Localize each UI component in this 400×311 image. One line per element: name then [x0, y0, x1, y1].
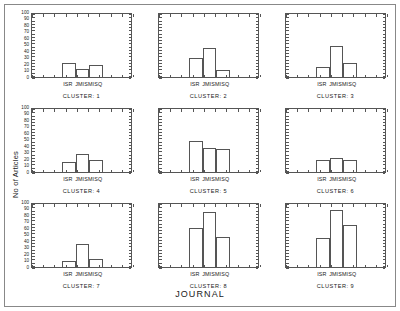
bar-jmis	[203, 148, 217, 172]
x-tick-label-jmis: JMIS	[329, 176, 342, 182]
y-tick-label: 10	[24, 259, 29, 264]
bar-jmis	[330, 158, 344, 172]
bar-isr	[316, 238, 330, 267]
y-tick-label: 10	[24, 164, 29, 169]
x-tick-top	[133, 204, 134, 207]
x-tick-label-jmis: JMIS	[329, 271, 342, 277]
y-tick-label-group: 0102030405060708090100	[16, 13, 29, 78]
panel-caption-cluster-2: CLUSTER: 2	[158, 93, 259, 99]
bar-jmis	[76, 69, 90, 77]
y-tick-label: 0	[26, 76, 29, 81]
y-tick-label: 0	[26, 171, 29, 176]
facet-panel-cluster-7: 0102030405060708090100ISRJMISMISQCLUSTER…	[31, 203, 132, 268]
bar-group-cluster-2	[159, 14, 258, 77]
y-tick-label: 10	[24, 69, 29, 74]
plot-area-cluster-7	[31, 203, 132, 268]
x-tick-label-jmis: JMIS	[202, 81, 215, 87]
x-tick-label-jmis: JMIS	[75, 176, 88, 182]
y-tick-label: 20	[24, 158, 29, 163]
bar-isr	[189, 228, 203, 267]
y-tick-label: 90	[24, 17, 29, 22]
panel-caption-cluster-7: CLUSTER: 7	[31, 283, 132, 289]
y-tick-label: 50	[24, 138, 29, 143]
y-tick-label: 50	[24, 233, 29, 238]
x-tick-label-misq: MISQ	[88, 271, 102, 277]
x-tick-bottom	[260, 265, 261, 268]
bar-group-cluster-7	[32, 204, 131, 267]
bar-jmis	[76, 154, 90, 172]
bar-group-cluster-6	[286, 109, 385, 172]
x-tick-top	[260, 109, 261, 112]
bar-isr	[189, 141, 203, 172]
panel-caption-cluster-4: CLUSTER: 4	[31, 188, 132, 194]
y-tick-right	[256, 268, 259, 269]
facet-panel-cluster-9: ISRJMISMISQCLUSTER: 9	[285, 203, 386, 268]
bar-misq	[343, 63, 357, 77]
y-tick-left	[159, 78, 162, 79]
x-tick-bottom	[387, 170, 388, 173]
y-tick-label: 20	[24, 253, 29, 258]
facet-panel-cluster-6: ISRJMISMISQCLUSTER: 6	[285, 108, 386, 173]
x-axis-title: JOURNAL	[0, 289, 400, 299]
bar-isr	[189, 58, 203, 78]
x-tick-label-misq: MISQ	[342, 176, 356, 182]
x-tick-label-misq: MISQ	[342, 271, 356, 277]
y-tick-right	[383, 173, 386, 174]
x-tick-label-isr: ISR	[63, 176, 72, 182]
panel-caption-cluster-8: CLUSTER: 8	[158, 283, 259, 289]
y-tick-label: 90	[24, 112, 29, 117]
x-tick-label-isr: ISR	[317, 271, 326, 277]
plot-area-cluster-6	[285, 108, 386, 173]
plot-area-cluster-8	[158, 203, 259, 268]
y-tick-right	[256, 173, 259, 174]
x-tick-label-isr: ISR	[63, 81, 72, 87]
y-tick-label: 90	[24, 207, 29, 212]
y-tick-left	[159, 268, 162, 269]
bar-misq	[216, 70, 230, 77]
x-tick-top	[133, 109, 134, 112]
x-tick-top	[387, 14, 388, 17]
y-tick-label: 70	[24, 30, 29, 35]
bar-jmis	[203, 48, 217, 77]
x-tick-top	[133, 14, 134, 17]
bar-group-cluster-4	[32, 109, 131, 172]
bar-isr	[316, 160, 330, 172]
x-tick-bottom	[387, 75, 388, 78]
plot-area-cluster-2	[158, 13, 259, 78]
x-tick-label-misq: MISQ	[215, 81, 229, 87]
y-tick-left	[159, 173, 162, 174]
x-tick-label-jmis: JMIS	[329, 81, 342, 87]
bar-isr	[316, 67, 330, 77]
y-tick-label: 70	[24, 220, 29, 225]
y-tick-left	[286, 268, 289, 269]
plot-area-cluster-3	[285, 13, 386, 78]
y-tick-label-group: 0102030405060708090100	[16, 108, 29, 173]
x-tick-label-jmis: JMIS	[202, 176, 215, 182]
panel-caption-cluster-9: CLUSTER: 9	[285, 283, 386, 289]
bar-jmis	[203, 212, 217, 267]
y-tick-left	[32, 173, 35, 174]
y-tick-label: 40	[24, 240, 29, 245]
y-tick-right	[129, 173, 132, 174]
bar-group-cluster-1	[32, 14, 131, 77]
facet-panel-cluster-3: ISRJMISMISQCLUSTER: 3	[285, 13, 386, 78]
facet-panel-cluster-2: ISRJMISMISQCLUSTER: 2	[158, 13, 259, 78]
bar-misq	[89, 65, 103, 77]
y-tick-label: 30	[24, 151, 29, 156]
x-tick-label-isr: ISR	[317, 176, 326, 182]
bar-isr	[62, 63, 76, 77]
bar-group-cluster-9	[286, 204, 385, 267]
y-tick-label: 80	[24, 119, 29, 124]
x-tick-top	[260, 204, 261, 207]
y-tick-left	[32, 268, 35, 269]
bar-misq	[216, 237, 230, 267]
panel-caption-cluster-6: CLUSTER: 6	[285, 188, 386, 194]
x-tick-top	[260, 14, 261, 17]
y-tick-label: 80	[24, 214, 29, 219]
facet-panel-cluster-5: ISRJMISMISQCLUSTER: 5	[158, 108, 259, 173]
y-tick-right	[383, 268, 386, 269]
figure-canvas: No of Articles JOURNAL 01020304050607080…	[0, 0, 400, 311]
facet-panel-cluster-1: 0102030405060708090100ISRJMISMISQCLUSTER…	[31, 13, 132, 78]
panel-caption-cluster-1: CLUSTER: 1	[31, 93, 132, 99]
y-tick-label: 0	[26, 266, 29, 271]
